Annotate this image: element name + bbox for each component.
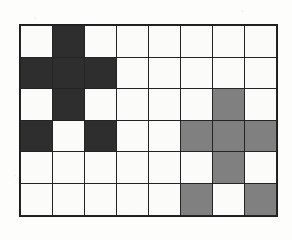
grid-cell-r1-c2[interactable] — [53, 26, 85, 58]
grid-cell-r6-c5[interactable] — [149, 183, 181, 215]
grid-cell-r5-c2[interactable] — [53, 152, 85, 184]
grid-cell-r1-c7[interactable] — [213, 26, 245, 58]
grid-cell-r4-c5[interactable] — [149, 120, 181, 152]
grid-cell-r3-c2[interactable] — [53, 89, 85, 121]
grid-cell-r5-c3[interactable] — [85, 152, 117, 184]
grid-row — [21, 26, 277, 58]
grid-cell-r2-c8[interactable] — [245, 57, 277, 89]
grid-cell-r3-c8[interactable] — [245, 89, 277, 121]
grid-row — [21, 152, 277, 184]
grid-cell-r2-c5[interactable] — [149, 57, 181, 89]
grid-cell-r6-c6[interactable] — [181, 183, 213, 215]
grid-cell-r4-c8[interactable] — [245, 120, 277, 152]
grid-cell-r1-c3[interactable] — [85, 26, 117, 58]
grid-cell-r5-c8[interactable] — [245, 152, 277, 184]
grid-cell-r1-c1[interactable] — [21, 26, 53, 58]
grid-cell-r3-c1[interactable] — [21, 89, 53, 121]
grid-row — [21, 183, 277, 215]
grid-row — [21, 89, 277, 121]
grid-cell-r2-c6[interactable] — [181, 57, 213, 89]
grid-cell-r1-c8[interactable] — [245, 26, 277, 58]
grid-cell-r6-c8[interactable] — [245, 183, 277, 215]
grid-cell-r2-c2[interactable] — [53, 57, 85, 89]
grid-figure — [20, 25, 276, 215]
grid-cell-r4-c7[interactable] — [213, 120, 245, 152]
grid-cell-r3-c3[interactable] — [85, 89, 117, 121]
grid-cell-r6-c1[interactable] — [21, 183, 53, 215]
grid-cell-r5-c7[interactable] — [213, 152, 245, 184]
grid-cell-r6-c3[interactable] — [85, 183, 117, 215]
grid-cell-r5-c1[interactable] — [21, 152, 53, 184]
grid-cell-r2-c7[interactable] — [213, 57, 245, 89]
grid-cell-r5-c6[interactable] — [181, 152, 213, 184]
grid-cell-r4-c2[interactable] — [53, 120, 85, 152]
grid-cell-r5-c5[interactable] — [149, 152, 181, 184]
grid-cell-r2-c4[interactable] — [117, 57, 149, 89]
grid-cell-r3-c4[interactable] — [117, 89, 149, 121]
grid-cell-r4-c4[interactable] — [117, 120, 149, 152]
grid-cell-r4-c1[interactable] — [21, 120, 53, 152]
grid-cell-r6-c7[interactable] — [213, 183, 245, 215]
grid-row — [21, 57, 277, 89]
grid-cell-r3-c6[interactable] — [181, 89, 213, 121]
grid-table — [20, 25, 277, 216]
grid-row — [21, 120, 277, 152]
grid-cell-r2-c1[interactable] — [21, 57, 53, 89]
grid-body — [21, 26, 277, 216]
grid-cell-r5-c4[interactable] — [117, 152, 149, 184]
grid-cell-r3-c7[interactable] — [213, 89, 245, 121]
grid-cell-r1-c5[interactable] — [149, 26, 181, 58]
grid-cell-r4-c6[interactable] — [181, 120, 213, 152]
grid-cell-r4-c3[interactable] — [85, 120, 117, 152]
grid-cell-r1-c4[interactable] — [117, 26, 149, 58]
grid-cell-r6-c4[interactable] — [117, 183, 149, 215]
grid-cell-r2-c3[interactable] — [85, 57, 117, 89]
grid-cell-r6-c2[interactable] — [53, 183, 85, 215]
grid-cell-r3-c5[interactable] — [149, 89, 181, 121]
grid-cell-r1-c6[interactable] — [181, 26, 213, 58]
